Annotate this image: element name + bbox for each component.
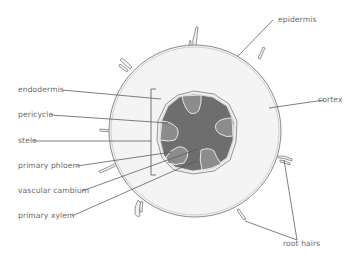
label-stele: stele	[18, 137, 37, 145]
root-cross-section-diagram	[0, 0, 354, 259]
root-hair	[258, 47, 265, 59]
label-pericycle: pericycle	[18, 111, 53, 119]
label-primary-phloem: primary phloem	[18, 162, 80, 170]
root-hair	[99, 163, 117, 173]
label-primary-xylem: primary xylem	[18, 212, 75, 220]
root-hair	[193, 27, 198, 47]
label-cortex: cortex	[318, 96, 343, 104]
root-hair	[140, 201, 143, 212]
label-root-hairs: root hairs	[283, 240, 320, 248]
root-hair	[237, 209, 246, 220]
label-epidermis: epidermis	[278, 16, 316, 24]
label-endodermis: endodermis	[18, 86, 64, 94]
label-vascular-cambium: vascular cambium	[18, 187, 89, 195]
